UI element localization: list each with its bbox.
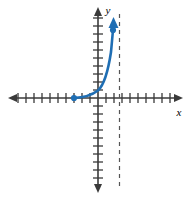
x-axis-label: x: [176, 106, 182, 118]
y-axis-bottom-arrow: [94, 184, 102, 193]
y-axis-top-arrow: [94, 7, 102, 16]
x-axis-left-arrow: [8, 94, 17, 102]
x-axis-right-arrow: [174, 94, 183, 102]
coordinate-graph: y x: [0, 0, 191, 200]
upper-point-marker: [110, 27, 116, 33]
graph-canvas: y x: [0, 0, 191, 200]
curve-arrow-head: [109, 17, 119, 28]
left-point-marker: [71, 95, 77, 101]
y-axis-label: y: [105, 4, 111, 16]
exponential-curve: [74, 30, 113, 98]
y-axis: [94, 7, 102, 193]
